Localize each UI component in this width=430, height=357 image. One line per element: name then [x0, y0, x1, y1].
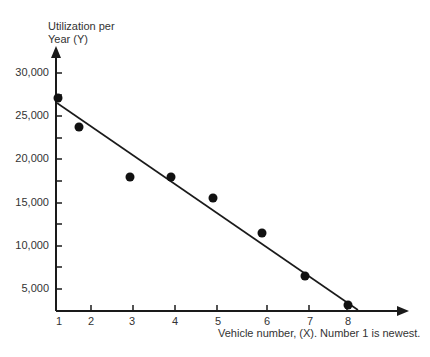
y-tick-label: 5,000	[3, 282, 49, 294]
y-tick-label: 25,000	[3, 109, 49, 121]
x-tick-label: 2	[84, 315, 98, 327]
y-axis-arrow-icon	[51, 46, 61, 58]
data-point	[126, 173, 135, 182]
x-tick-label: 5	[211, 315, 225, 327]
data-points	[54, 94, 353, 310]
scatter-chart: Utilization per Year (Y) 30,000 25,000 2…	[0, 0, 430, 357]
x-tick-label: 3	[125, 315, 139, 327]
data-point	[209, 194, 218, 203]
data-point	[75, 123, 84, 132]
data-point	[344, 301, 353, 310]
chart-canvas	[0, 0, 430, 357]
y-axis-title-line-1: Utilization per	[48, 20, 115, 33]
y-tick-label: 10,000	[3, 239, 49, 251]
x-tick-label: 4	[168, 315, 182, 327]
x-axis-title: Vehicle number, (X). Number 1 is newest.	[218, 327, 420, 339]
x-tick-label: 8	[341, 315, 355, 327]
x-tick-label: 7	[303, 315, 317, 327]
y-tick-label: 15,000	[3, 196, 49, 208]
data-point	[301, 272, 310, 281]
data-point	[54, 94, 63, 103]
x-tick-label: 1	[52, 315, 66, 327]
data-point	[258, 229, 267, 238]
y-axis-title-line-2: Year (Y)	[48, 33, 115, 46]
y-axis-title: Utilization per Year (Y)	[48, 20, 115, 46]
y-tick-label: 30,000	[3, 66, 49, 78]
regression-line	[57, 103, 358, 310]
x-axis-arrow-icon	[397, 306, 409, 316]
data-point	[167, 173, 176, 182]
y-tick-label: 20,000	[3, 152, 49, 164]
x-tick-label: 6	[260, 315, 274, 327]
